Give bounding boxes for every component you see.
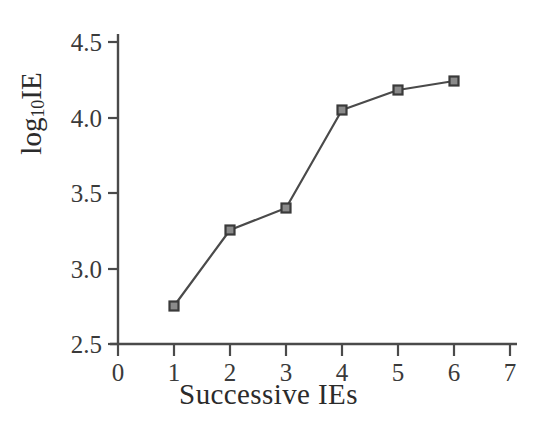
y-tick-label-2: 3.5 [52, 181, 102, 206]
y-axis-title-tail: IE [15, 72, 47, 99]
data-series-line [174, 81, 454, 306]
data-series-markers [170, 77, 459, 311]
data-point-marker [226, 226, 235, 235]
data-point-marker [394, 86, 403, 95]
data-point-marker [338, 106, 347, 115]
y-tick-label-3: 4.0 [52, 106, 102, 131]
y-axis-title-subscript: 10 [28, 100, 48, 118]
data-point-marker [282, 204, 291, 213]
x-axis-title: Successive IEs [0, 378, 537, 411]
y-axis-ticks [108, 42, 118, 344]
y-axis-title-base: log [15, 118, 47, 155]
y-tick-label-4: 4.5 [52, 30, 102, 55]
y-tick-label-1: 3.0 [52, 257, 102, 282]
y-axis-title: log10IE [15, 33, 50, 193]
y-tick-label-0: 2.5 [52, 332, 102, 357]
x-axis-ticks [118, 344, 510, 356]
chart-figure: 4.5 4.0 3.5 3.0 2.5 0 1 2 3 4 5 6 7 Succ… [0, 0, 537, 432]
data-point-marker [170, 302, 179, 311]
data-point-marker [450, 77, 459, 86]
